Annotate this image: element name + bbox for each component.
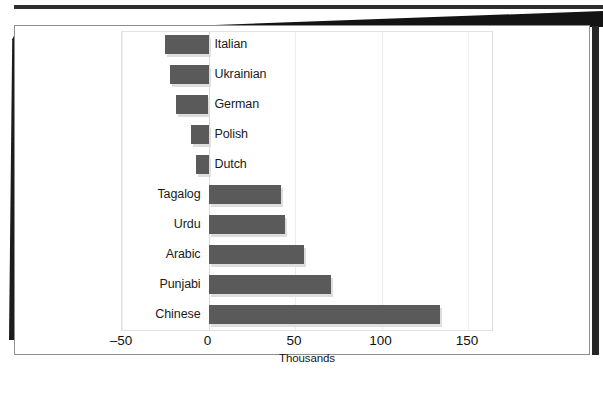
bar bbox=[209, 185, 282, 204]
bar bbox=[209, 245, 304, 264]
bar bbox=[209, 215, 285, 234]
bar bbox=[191, 125, 208, 144]
bar-category-label: Arabic bbox=[166, 245, 201, 264]
bar-row: Punjabi bbox=[122, 272, 492, 302]
bar-row: German bbox=[122, 92, 492, 122]
bar-row: Ukrainian bbox=[122, 62, 492, 92]
bar-category-label: Italian bbox=[215, 35, 248, 54]
bar-category-label: Ukrainian bbox=[215, 65, 267, 84]
bar-row: Chinese bbox=[122, 302, 492, 332]
bar-category-label: Polish bbox=[215, 125, 248, 144]
bar-row: Tagalog bbox=[122, 182, 492, 212]
bar-category-label: Punjabi bbox=[160, 275, 201, 294]
x-tick-label: 100 bbox=[369, 333, 392, 348]
x-tick-label: 50 bbox=[287, 333, 302, 348]
bar-category-label: Chinese bbox=[155, 305, 200, 324]
x-tick-label: –50 bbox=[110, 333, 133, 348]
bar bbox=[209, 275, 332, 294]
x-tick-label: 0 bbox=[204, 333, 212, 348]
bar-row: Dutch bbox=[122, 152, 492, 182]
bar-category-label: Tagalog bbox=[157, 185, 200, 204]
bar-row: Urdu bbox=[122, 212, 492, 242]
bar-category-label: Dutch bbox=[215, 155, 247, 174]
bar bbox=[209, 305, 441, 324]
scanned-page: ItalianUkrainianGermanPolishDutchTagalog… bbox=[0, 0, 603, 395]
bar bbox=[176, 95, 209, 114]
bar-category-label: German bbox=[215, 95, 260, 114]
figure-box: ItalianUkrainianGermanPolishDutchTagalog… bbox=[14, 25, 590, 355]
x-axis-title: Thousands bbox=[121, 352, 493, 364]
x-axis-ticks: –50050100150 bbox=[121, 333, 493, 351]
page-shadow-right bbox=[592, 26, 599, 355]
bar-category-label: Urdu bbox=[174, 215, 201, 234]
page-top-rule bbox=[14, 5, 603, 9]
bar-row: Arabic bbox=[122, 242, 492, 272]
bar bbox=[165, 35, 208, 54]
bar-row: Italian bbox=[122, 32, 492, 62]
bar bbox=[170, 65, 208, 84]
bar-row: Polish bbox=[122, 122, 492, 152]
bar-series: ItalianUkrainianGermanPolishDutchTagalog… bbox=[122, 32, 492, 330]
caption-sliver bbox=[18, 379, 538, 391]
bar bbox=[196, 155, 208, 174]
x-tick-label: 150 bbox=[456, 333, 479, 348]
plot-area: ItalianUkrainianGermanPolishDutchTagalog… bbox=[121, 31, 493, 331]
